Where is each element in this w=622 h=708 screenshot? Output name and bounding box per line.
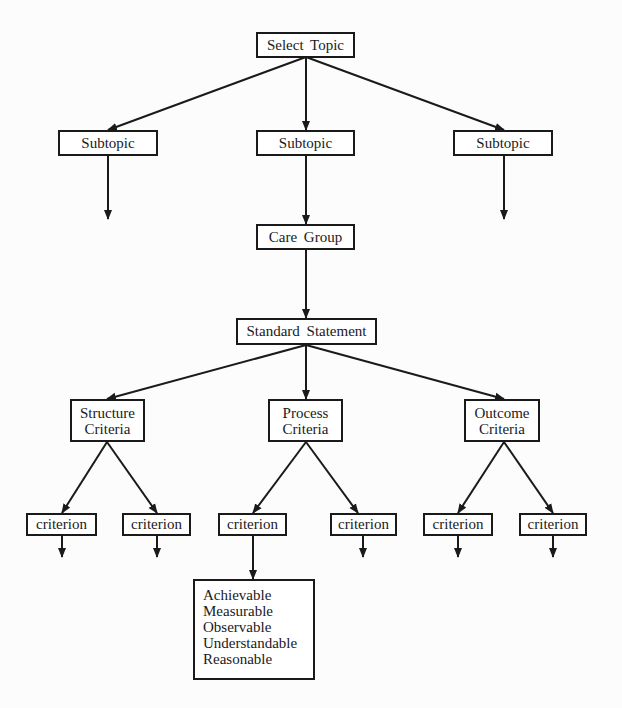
- criterion-node-2: criterion: [122, 513, 191, 536]
- subtopic-left-label: Subtopic: [81, 136, 134, 151]
- standard-statement-label: Standard Statement: [246, 324, 366, 339]
- structure-criteria-line1: Structure: [80, 405, 135, 421]
- process-criteria-line2: Criteria: [283, 421, 329, 437]
- structure-criteria-line2: Criteria: [85, 421, 131, 437]
- attribute-observable: Observable: [203, 619, 271, 635]
- attribute-reasonable: Reasonable: [203, 651, 272, 667]
- subtopic-middle-label: Subtopic: [279, 136, 332, 151]
- criterion-attributes-node: Achievable Measurable Observable Underst…: [193, 579, 315, 680]
- standard-statement-node: Standard Statement: [236, 318, 377, 345]
- criterion-label: criterion: [338, 517, 389, 532]
- care-group-node: Care Group: [256, 224, 355, 250]
- criterion-label: criterion: [131, 517, 182, 532]
- select-topic-node: Select Topic: [256, 32, 355, 58]
- criterion-node-4: criterion: [330, 513, 397, 536]
- attribute-understandable: Understandable: [203, 635, 297, 651]
- criterion-node-5: criterion: [423, 513, 493, 536]
- subtopic-left-node: Subtopic: [58, 130, 158, 156]
- criterion-node-1: criterion: [26, 513, 97, 536]
- process-criteria-line1: Process: [283, 405, 329, 421]
- outcome-criteria-line1: Outcome: [475, 405, 530, 421]
- structure-criteria-node: Structure Criteria: [70, 399, 145, 442]
- criterion-node-6: criterion: [519, 513, 587, 536]
- attribute-measurable: Measurable: [203, 603, 273, 619]
- criterion-label: criterion: [227, 517, 278, 532]
- subtopic-right-label: Subtopic: [476, 136, 529, 151]
- care-group-label: Care Group: [269, 230, 342, 245]
- select-topic-label: Select Topic: [267, 38, 344, 53]
- process-criteria-node: Process Criteria: [268, 399, 343, 442]
- criterion-label: criterion: [433, 517, 484, 532]
- attribute-achievable: Achievable: [203, 587, 271, 603]
- criterion-label: criterion: [528, 517, 579, 532]
- outcome-criteria-node: Outcome Criteria: [464, 399, 540, 442]
- diagram-canvas: Select Topic Subtopic Subtopic Subtopic …: [0, 0, 622, 708]
- outcome-criteria-line2: Criteria: [479, 421, 525, 437]
- subtopic-right-node: Subtopic: [453, 130, 553, 156]
- subtopic-middle-node: Subtopic: [256, 130, 355, 156]
- criterion-label: criterion: [36, 517, 87, 532]
- criterion-node-3: criterion: [218, 513, 287, 536]
